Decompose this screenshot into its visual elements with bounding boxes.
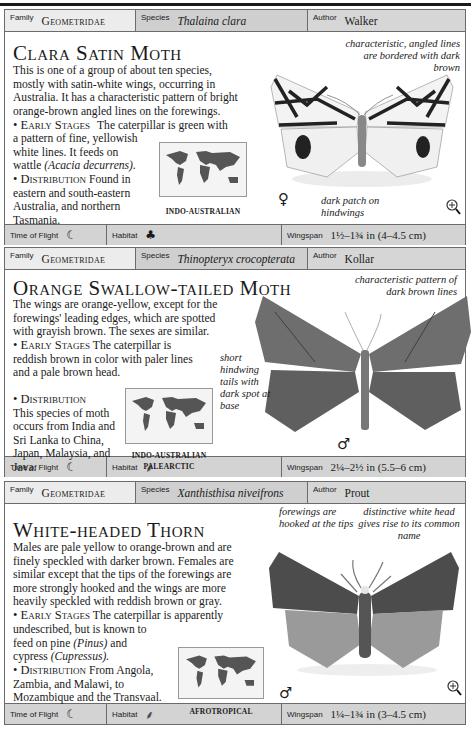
author-cell: Author Walker <box>308 10 465 31</box>
distribution-label: • Distribution <box>13 392 86 406</box>
species-label: Species <box>141 13 169 22</box>
early-stages-label: • Early Stages <box>13 338 90 352</box>
author-value: Prout <box>345 487 370 499</box>
species-card-orange-swallow-tailed-moth: Family Geometridae Species Thinopteryx c… <box>4 247 466 477</box>
tree-icon: ♣ <box>145 228 156 242</box>
species-cell: Species Thalaina clara <box>136 10 308 31</box>
species-value: Xanthisthisa niveifrons <box>177 487 283 499</box>
author-cell: Author Prout <box>308 482 465 503</box>
map-region-label: INDO-AUSTRALIAN PALEARCTIC <box>121 450 217 472</box>
annotation-angled-lines: characteristic, angled lines are bordere… <box>342 38 460 74</box>
early-stages-lead: The caterpillar is green with <box>97 119 247 133</box>
card-header: Family Geometridae Species Xanthisthisa … <box>5 482 465 504</box>
species-title: White-headed Thorn <box>13 518 205 543</box>
wingspan-cell: Wingspan 1½–1¾ in (4–4.5 cm) <box>282 225 465 245</box>
world-map-icon <box>126 389 212 443</box>
early-stages-block: • Early Stages The caterpillar is reddis… <box>13 339 203 380</box>
time-of-flight-cell: Time of Flight ☾ <box>5 704 107 724</box>
annotation-dark-patch: dark patch on hindwings <box>321 195 391 219</box>
card-body: Orange Swallow-tailed Moth The wings are… <box>5 270 465 456</box>
wingspan-label: Wingspan <box>287 463 323 472</box>
species-value: Thalaina clara <box>177 15 246 27</box>
early-stages-label: • Early Stages <box>13 118 90 132</box>
description-text: The wings are orange-yellow, except for … <box>13 298 235 339</box>
habitat-label: Habitat <box>112 231 137 240</box>
habitat-cell: Habitat ♣ <box>107 225 282 245</box>
map-region-label: INDO-AUSTRALIAN <box>155 206 251 217</box>
author-value: Kollar <box>345 253 374 265</box>
species-label: Species <box>141 485 169 494</box>
annotation-dark-brown-lines: characteristic pattern of dark brown lin… <box>337 274 457 298</box>
annotation-hooked-tips: forewings are hooked at the tips <box>279 506 355 530</box>
map-region-line2: PALEARCTIC <box>121 461 217 472</box>
world-map-icon <box>160 143 246 196</box>
distribution-block: • Distribution From Angola, Zambia, and … <box>13 664 173 705</box>
moon-icon: ☾ <box>66 228 77 242</box>
card-body: Clara Satin Moth This is one of a group … <box>5 32 465 224</box>
distribution-block: • Distribution This species of moth occu… <box>13 393 125 475</box>
card-body: White-headed Thorn Males are pale yellow… <box>5 504 465 703</box>
early-stages-italic-cupressus: (Cupressus). <box>51 650 110 663</box>
white-headed-thorn-illustration <box>267 548 461 678</box>
author-label: Author <box>313 13 337 22</box>
family-value: Geometridae <box>42 15 106 27</box>
wingspan-label: Wingspan <box>287 710 323 719</box>
annotation-hindwing-tails: short hindwing tails with dark spot at b… <box>220 352 276 412</box>
species-value: Thinopteryx crocopterata <box>177 253 294 265</box>
author-label: Author <box>313 485 337 494</box>
description-text: Males are pale yellow to orange-brown an… <box>13 541 249 609</box>
early-stages-label: • Early Stages <box>13 608 90 622</box>
wingspan-cell: Wingspan 2¼–2½ in (5.5–6 cm) <box>282 457 465 477</box>
description-text: This is one of a group of about ten spec… <box>13 64 238 118</box>
habitat-label: Habitat <box>112 710 137 719</box>
moon-icon: ☾ <box>66 707 77 721</box>
time-of-flight-label: Time of Flight <box>10 710 58 719</box>
zoom-magnifier-icon[interactable] <box>446 199 461 219</box>
distribution-block: • Distribution Found in eastern and sout… <box>13 173 153 227</box>
family-label: Family <box>10 251 34 260</box>
early-stages-italic: (Acacia decurrens). <box>44 159 136 172</box>
species-label: Species <box>141 251 169 260</box>
wingspan-cell: Wingspan 1¼–1¾ in (3–4.5 cm) <box>282 704 465 724</box>
female-symbol-icon: ♀ <box>278 190 289 208</box>
species-cell: Species Xanthisthisa niveifrons <box>136 482 308 503</box>
annotation-white-head: distinctive white head gives rise to its… <box>357 506 461 542</box>
family-cell: Family Geometridae <box>5 248 136 269</box>
family-label: Family <box>10 485 34 494</box>
male-symbol-icon: ♂ <box>337 435 350 453</box>
palm-tree-icon: ⸙ <box>145 706 154 723</box>
world-map <box>178 647 264 699</box>
early-stages-text: a pattern of fine, yellowish white lines… <box>13 132 145 173</box>
distribution-label: • Distribution <box>13 172 86 186</box>
species-card-clara-satin-moth: Family Geometridae Species Thalaina clar… <box>4 9 466 245</box>
distribution-label: • Distribution <box>13 663 86 677</box>
family-cell: Family Geometridae <box>5 10 136 31</box>
wingspan-value: 1½–1¾ in (4–4.5 cm) <box>331 229 426 241</box>
clara-satin-moth-illustration <box>267 57 457 187</box>
family-value: Geometridae <box>42 487 106 499</box>
distribution-text: This species of moth occurs from India a… <box>13 407 115 474</box>
world-map <box>125 388 213 444</box>
map-region-label: AFROTROPICAL <box>173 706 269 717</box>
map-region-line1: INDO-AUSTRALIAN <box>121 450 217 461</box>
author-cell: Author Kollar <box>308 248 465 269</box>
author-value: Walker <box>345 15 378 27</box>
wingspan-value: 2¼–2½ in (5.5–6 cm) <box>331 461 426 473</box>
wingspan-value: 1¼–1¾ in (3–4.5 cm) <box>331 708 426 720</box>
time-of-flight-label: Time of Flight <box>10 231 58 240</box>
zoom-magnifier-icon[interactable] <box>447 680 462 700</box>
family-cell: Family Geometridae <box>5 482 136 503</box>
early-stages-text: undescribed, but is known to feed on pin… <box>13 623 163 664</box>
orange-swallow-tailed-moth-illustration <box>255 292 471 438</box>
author-label: Author <box>313 251 337 260</box>
description-block: This is one of a group of about ten spec… <box>13 64 245 118</box>
card-header: Family Geometridae Species Thalaina clar… <box>5 10 465 32</box>
family-label: Family <box>10 13 34 22</box>
species-title: Clara Satin Moth <box>13 41 182 66</box>
species-cell: Species Thinopteryx crocopterata <box>136 248 308 269</box>
male-symbol-icon: ♂ <box>279 684 292 702</box>
card-header: Family Geometridae Species Thinopteryx c… <box>5 248 465 270</box>
species-card-white-headed-thorn: Family Geometridae Species Xanthisthisa … <box>4 481 466 725</box>
family-value: Geometridae <box>42 253 106 265</box>
wingspan-label: Wingspan <box>287 231 323 240</box>
